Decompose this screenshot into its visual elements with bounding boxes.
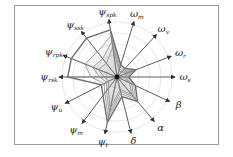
axis-label: ωr bbox=[175, 47, 187, 59]
axis-label: ωm bbox=[130, 8, 144, 20]
axis-label: ψt bbox=[98, 136, 109, 148]
axis-label: ψspk bbox=[98, 6, 117, 19]
axis-label: ψssk bbox=[66, 19, 84, 31]
axis-label: ψrpk bbox=[45, 46, 64, 59]
center-dot bbox=[115, 75, 120, 80]
axis-label: ψm bbox=[69, 124, 83, 136]
axis-label: α bbox=[157, 122, 164, 133]
axis-label: β bbox=[175, 99, 182, 110]
axis-label: ωs bbox=[179, 71, 190, 83]
axis-label: ωv bbox=[158, 23, 170, 35]
axis-label: ψu bbox=[51, 101, 63, 113]
axis-label: ψrsk bbox=[40, 71, 58, 83]
axis-label: δ bbox=[130, 135, 136, 146]
radar-chart: ψspkωmωvωrωsβαδψtψmψuψrskψrpkψssk bbox=[0, 0, 233, 157]
